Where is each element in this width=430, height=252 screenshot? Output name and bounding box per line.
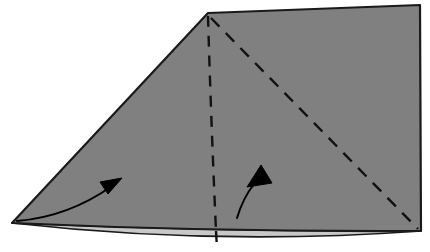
figure-container: Paper folding step diagram A shaded quad… — [0, 0, 430, 252]
paper-folding-diagram — [0, 0, 430, 252]
